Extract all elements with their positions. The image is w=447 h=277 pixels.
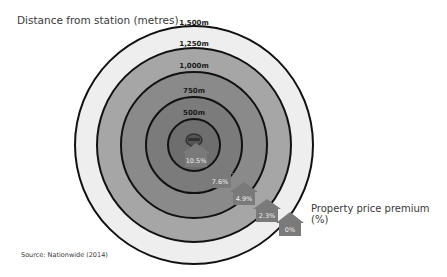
- premium-4-9: 4.9%: [236, 195, 253, 203]
- premium-10-5: 10.5%: [186, 157, 207, 165]
- source-note: Source: Nationwide (2014): [21, 251, 108, 259]
- ring-label-1000m: 1,000m: [179, 62, 208, 70]
- premium-legend-label: Property price premium (%): [311, 203, 447, 225]
- premium-7-6: 7.6%: [212, 178, 229, 186]
- ring-label-1250m: 1,250m: [179, 40, 208, 48]
- premium-2-3: 2.3%: [259, 212, 276, 220]
- premium-0: 0%: [285, 226, 295, 234]
- ring-label-1500m: 1,500m: [179, 19, 208, 27]
- distance-rings-diagram: 1,500m 1,250m 1,000m 750m 500m 10.5% 7.6…: [0, 0, 447, 277]
- ring-label-500m: 500m: [183, 109, 205, 117]
- ring-label-750m: 750m: [183, 87, 205, 95]
